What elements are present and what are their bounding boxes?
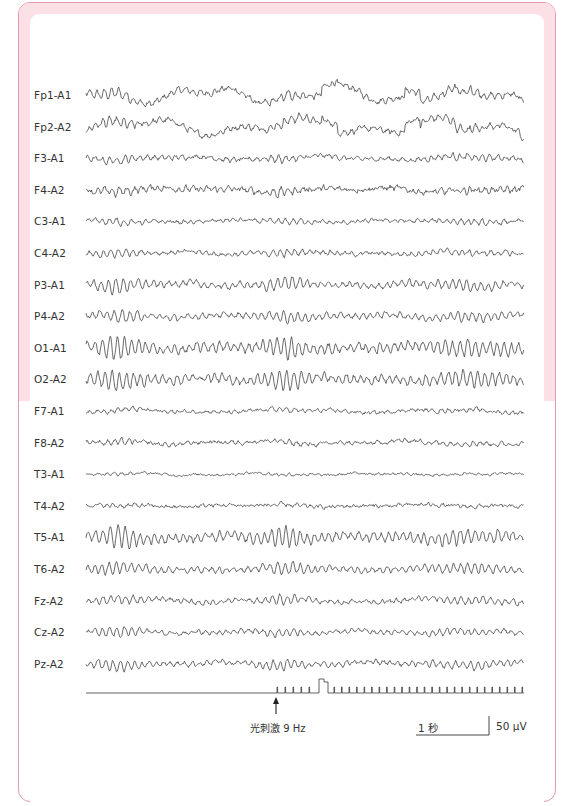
eeg-trace bbox=[86, 277, 524, 295]
eeg-trace bbox=[86, 79, 524, 107]
scale-amplitude-label: 50 μV bbox=[496, 720, 527, 732]
eeg-trace bbox=[86, 113, 524, 141]
eeg-trace bbox=[86, 437, 524, 447]
eeg-trace bbox=[86, 406, 524, 415]
eeg-trace bbox=[86, 525, 524, 549]
eeg-trace bbox=[86, 501, 524, 509]
scale-time-label: 1 秒 bbox=[418, 720, 438, 735]
stimulus-label: 光刺激 9 Hz bbox=[250, 720, 306, 735]
eeg-trace bbox=[86, 248, 524, 258]
eeg-trace bbox=[86, 369, 524, 391]
eeg-trace bbox=[86, 152, 524, 165]
eeg-trace bbox=[86, 310, 524, 325]
stimulus-marker-line bbox=[86, 679, 524, 693]
eeg-trace bbox=[86, 471, 524, 476]
eeg-trace bbox=[86, 659, 524, 672]
eeg-trace bbox=[86, 561, 524, 575]
stimulus-onset-arrow-icon bbox=[273, 697, 279, 714]
eeg-trace bbox=[86, 185, 524, 198]
eeg-trace bbox=[86, 336, 524, 360]
eeg-trace bbox=[86, 594, 524, 606]
eeg-trace bbox=[86, 217, 524, 226]
eeg-trace bbox=[86, 627, 524, 638]
